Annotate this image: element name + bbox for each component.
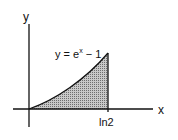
curve-equation: y = ex − 1 — [55, 47, 101, 60]
x-axis-label: x — [158, 103, 164, 117]
eq-suffix: − 1 — [83, 48, 102, 60]
y-axis-label: y — [23, 10, 29, 24]
eq-base: y = e — [55, 48, 79, 60]
shaded-area — [29, 53, 108, 109]
graph: y x ln2 y = ex − 1 — [0, 0, 178, 140]
tick-label-ln2: ln2 — [99, 116, 114, 128]
